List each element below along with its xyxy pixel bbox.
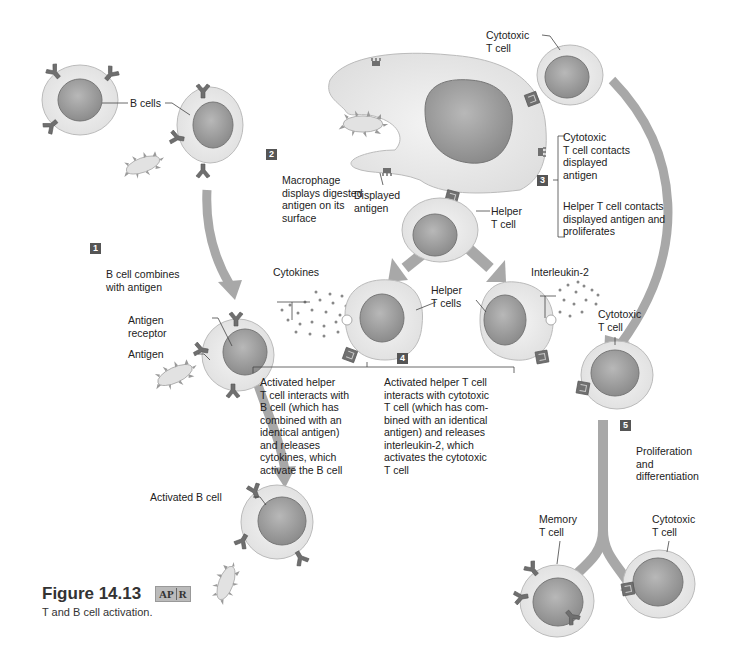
step-4-text-cytotoxic: Activated helper T cell interacts with c… xyxy=(384,376,489,476)
step-1-text: B cell combines with antigen xyxy=(106,268,180,293)
label-cytokines: Cytokines xyxy=(273,266,319,279)
helper-t-cell xyxy=(402,198,478,262)
label-activated-b-cell: Activated B cell xyxy=(150,491,222,504)
helper-t-cell-activated-right xyxy=(480,282,556,364)
label-interleukin-2: Interleukin-2 xyxy=(531,266,589,279)
step-3-badge: 3 xyxy=(537,175,548,186)
label-b-cells: B cells xyxy=(130,97,161,110)
step-5: 5 Proliferation and differentiation xyxy=(620,420,699,483)
cytotoxic-t-cell-top xyxy=(537,45,603,105)
step-4-badge: 4 xyxy=(397,353,408,364)
label-antigen-receptor: Antigen receptor xyxy=(128,314,167,339)
step-1: 1 B cell combines with antigen xyxy=(90,243,180,293)
label-helper-t-cell: Helper T cell xyxy=(491,205,522,230)
label-cytotoxic-t-cell-mid: Cytotoxic T cell xyxy=(598,308,641,333)
step-4-text-b-cell: Activated helper T cell interacts with B… xyxy=(260,376,349,476)
figure-caption: T and B cell activation. xyxy=(42,606,152,618)
step-5-text: Proliferation and differentiation xyxy=(636,445,699,482)
label-cytotoxic-t-cell-bottom: Cytotoxic T cell xyxy=(652,513,695,538)
cytotoxic-t-cell-mid xyxy=(576,341,653,409)
arrow-helper-right xyxy=(468,248,490,268)
step-3-text-cytotoxic: Cytotoxic T cell contacts displayed anti… xyxy=(563,131,630,181)
activated-b-cell xyxy=(207,482,313,607)
label-cytotoxic-t-cell-top: Cytotoxic T cell xyxy=(486,29,529,54)
figure-number: Figure 14.13 xyxy=(42,584,141,604)
helper-t-cell-activated-left xyxy=(342,280,423,363)
apr-badge-right: R xyxy=(179,588,187,600)
step-2-text: Macrophage displays digested antigen on … xyxy=(282,174,363,224)
label-helper-t-cells: Helper T cells xyxy=(431,284,462,309)
step-1-badge: 1 xyxy=(90,243,101,254)
step-2-badge: 2 xyxy=(266,149,277,160)
apr-badge-left: AP xyxy=(159,588,174,600)
cytotoxic-t-cell-bottom xyxy=(621,550,695,618)
step-2: 2 Macrophage displays digested antigen o… xyxy=(266,149,363,224)
arrow-to-memory xyxy=(565,420,603,585)
step-3-text-helper: Helper T cell contacts displayed antigen… xyxy=(563,200,665,238)
b-cell-1 xyxy=(41,62,120,135)
apr-badge[interactable]: APR xyxy=(155,586,191,602)
interleukin-particles xyxy=(559,281,600,318)
b-cell-antigen-bound xyxy=(149,312,274,398)
step-5-badge: 5 xyxy=(620,420,631,431)
label-memory-t-cell: Memory T cell xyxy=(539,513,577,538)
arrow-step1 xyxy=(207,190,230,285)
label-antigen: Antigen xyxy=(128,348,164,361)
